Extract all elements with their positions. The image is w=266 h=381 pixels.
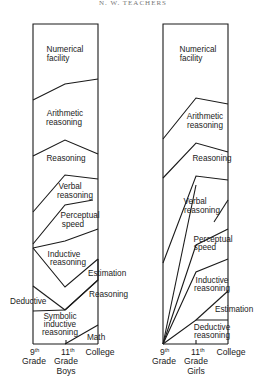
boys-group-label: Boys [56, 366, 75, 376]
girls-label-reasoning: Reasoning [192, 154, 232, 163]
page-header: N. W. TEACHERS [99, 0, 167, 7]
boys-axis-college: College [85, 347, 114, 357]
girls-label-inductive-2: reasoning [194, 284, 230, 293]
boys-label-arith-2: reasoning [46, 118, 82, 127]
girls-label-perceptual-2: speed [194, 243, 217, 252]
girls-group-label: Girls [187, 366, 205, 376]
girls-label-numerical-2: facility [180, 54, 204, 63]
girls-label-arith-2: reasoning [187, 121, 223, 130]
panel-girls: Numerical facility Arithmetic reasoning … [152, 24, 254, 376]
boys-axis-9th-grade: Grade [22, 356, 46, 366]
boys-label-inductive-2: reasoning [50, 258, 86, 267]
boys-label-math: Math [87, 333, 106, 342]
girls-label-estimation: Estimation [215, 305, 254, 314]
girls-label-verbal-1: Verbal [183, 197, 206, 206]
boys-label-symbolic-3: reasoning [42, 328, 78, 337]
panel-boys: Numerical facility Arithmetic reasoning … [10, 24, 129, 376]
boys-label-perceptual-2: speed [62, 220, 85, 229]
boys-boundary-symbolic-top [33, 310, 65, 311]
boys-axis-11th-grade: Grade [54, 356, 78, 366]
girls-axis-9th-grade: Grade [152, 356, 176, 366]
boys-label-deductive: Deductive [10, 297, 47, 306]
girls-label-verbal-2: reasoning [184, 206, 220, 215]
boys-label-estimation: Estimation [88, 269, 127, 278]
boys-label-arith-1: Arithmetic [47, 109, 83, 118]
boys-boundary-numerical-arith [33, 79, 98, 100]
girls-axis-college: College [216, 347, 245, 357]
boys-label-verbal-2: reasoning [57, 191, 93, 200]
boys-label-numerical-2: facility [47, 54, 71, 63]
boys-label-verbal-1: Verbal [58, 182, 81, 191]
boys-label-perceptual-1: Perceptual [60, 211, 99, 220]
girls-label-arith-1: Arithmetic [187, 112, 223, 121]
boys-label-reasoning: Reasoning [46, 154, 86, 163]
boys-label-numerical-1: Numerical [47, 45, 84, 54]
girls-label-deductive-2: reasoning [194, 331, 230, 340]
factor-structure-diagram: N. W. TEACHERS Numerical facility Arithm… [0, 0, 266, 381]
girls-axis-11th-grade: Grade [184, 356, 208, 366]
boys-label-reasoning-2: Reasoning [89, 290, 129, 299]
girls-label-numerical-1: Numerical [180, 45, 217, 54]
